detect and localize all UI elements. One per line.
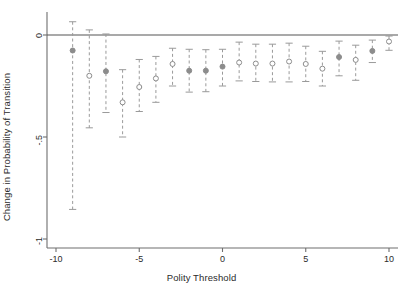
data-point-with-errorbar (86, 30, 93, 128)
data-point-with-errorbar (69, 22, 76, 210)
data-point-marker (170, 61, 175, 66)
x-tick-label: 5 (291, 254, 321, 264)
data-point-marker (237, 60, 242, 65)
data-point-marker (253, 61, 258, 66)
data-point-marker (87, 73, 92, 78)
data-point-with-errorbar (385, 36, 392, 50)
data-point-marker (137, 85, 142, 90)
data-point-with-errorbar (136, 59, 143, 111)
y-axis-title: Change in Probability of Transition (0, 0, 14, 294)
data-point-marker (370, 48, 375, 53)
chart-figure: Polity Threshold Change in Probability o… (0, 0, 403, 294)
data-point-marker (120, 100, 125, 105)
data-point-with-errorbar (352, 45, 359, 80)
data-point-with-errorbar (119, 70, 126, 137)
x-tick-label: -5 (124, 254, 154, 264)
data-point-marker (187, 68, 192, 73)
data-point-with-errorbar (319, 51, 326, 86)
data-point-marker (203, 68, 208, 73)
data-point-marker (153, 76, 158, 81)
data-point-with-errorbar (219, 49, 226, 86)
data-point-with-errorbar (335, 41, 342, 76)
data-series-group (69, 22, 393, 210)
x-tick-label: -10 (41, 254, 71, 264)
data-point-with-errorbar (269, 44, 276, 82)
data-point-with-errorbar (202, 50, 209, 92)
data-point-with-errorbar (186, 49, 193, 92)
data-point-with-errorbar (369, 40, 376, 62)
data-point-marker (220, 64, 225, 69)
data-point-with-errorbar (152, 56, 159, 102)
data-point-marker (70, 48, 75, 53)
y-tick-label: -1 (34, 237, 44, 259)
data-point-marker (337, 55, 342, 60)
data-point-marker (287, 59, 292, 64)
data-point-marker (387, 39, 392, 44)
data-point-with-errorbar (169, 48, 176, 86)
data-point-with-errorbar (302, 46, 309, 81)
scatter-plot-canvas (0, 0, 403, 294)
data-point-with-errorbar (252, 44, 259, 81)
x-tick-label: 10 (374, 254, 403, 264)
data-point-with-errorbar (102, 34, 109, 113)
data-point-marker (353, 57, 358, 62)
x-axis-title: Polity Threshold (0, 272, 403, 283)
data-point-marker (303, 61, 308, 66)
x-tick-label: 0 (208, 254, 238, 264)
y-tick-label: 0 (34, 33, 44, 55)
data-point-with-errorbar (236, 42, 243, 81)
data-point-with-errorbar (286, 43, 293, 82)
data-point-marker (320, 66, 325, 71)
y-tick-label: -.5 (34, 135, 44, 157)
data-point-marker (270, 61, 275, 66)
data-point-marker (103, 69, 108, 74)
